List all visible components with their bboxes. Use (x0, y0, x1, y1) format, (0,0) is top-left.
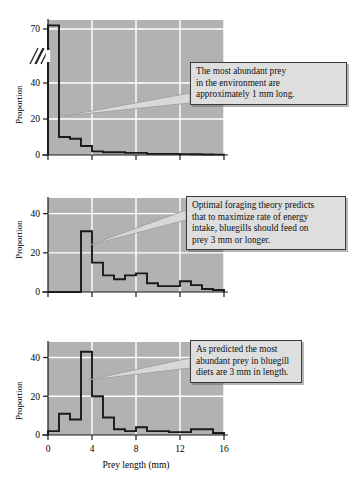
panel-3-y-axis-label: Proportion (14, 381, 24, 420)
x-tick-label: 4 (90, 444, 95, 454)
callout-diet-line-3: diets are 3 mm in length. (196, 367, 296, 379)
panel-2-y-axis-label: Proportion (14, 220, 24, 259)
y-tick-label: 0 (35, 150, 40, 160)
callout-diet-line-2: abundant prey in bluegill (196, 356, 296, 368)
callout-optimal-line-4: prey 3 mm or longer. (192, 235, 340, 247)
y-tick-label: 20 (31, 248, 41, 258)
y-tick-label: 40 (31, 209, 41, 219)
y-tick-label: 40 (31, 353, 41, 363)
x-tick-label: 0 (46, 444, 51, 454)
x-tick-label: 12 (175, 444, 185, 454)
x-tick-label: 16 (219, 444, 229, 454)
callout-optimal-line-3: intake, bluegills should feed on (192, 223, 340, 235)
callout-environment-line-1: The most abundant prey (196, 66, 341, 78)
figure-prey-length-histograms: Proportion 0204070 Proportion 02040 Prop… (0, 0, 351, 483)
callout-environment-line-3: approximately 1 mm long. (196, 89, 341, 101)
y-tick-label: 0 (35, 430, 40, 440)
callout-optimal-line-1: Optimal foraging theory predicts (192, 200, 340, 212)
panel-1-y-axis-label: Proportion (14, 85, 24, 124)
y-tick-label: 20 (31, 392, 41, 402)
callout-diet: As predicted the most abundant prey in b… (190, 340, 302, 383)
callout-environment: The most abundant prey in the environmen… (190, 62, 347, 105)
callout-environment-line-2: in the environment are (196, 78, 341, 90)
y-tick-label: 40 (31, 78, 41, 88)
x-tick-label: 8 (134, 444, 139, 454)
callout-optimal-foraging: Optimal foraging theory predicts that to… (186, 196, 346, 250)
x-axis-title: Prey length (mm) (66, 460, 206, 470)
callout-diet-line-1: As predicted the most (196, 344, 296, 356)
y-tick-label: 70 (31, 24, 41, 34)
callout-optimal-line-2: that to maximize rate of energy (192, 212, 340, 224)
y-tick-label: 20 (31, 114, 41, 124)
y-tick-label: 0 (35, 287, 40, 297)
